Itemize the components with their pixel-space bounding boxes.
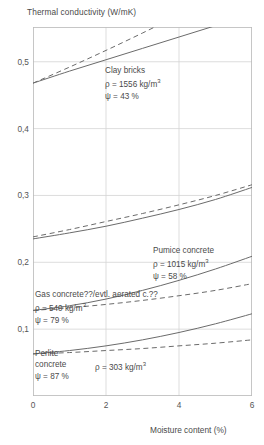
annotation-density: ρ = 540 kg/m3 bbox=[35, 300, 158, 314]
annotation-pumice-concrete: Pumice concrete ρ = 1015 kg/m3 ψ = 58 % bbox=[153, 245, 214, 282]
annotation-density: ρ = 1556 kg/m3 bbox=[105, 76, 161, 90]
annotation-gas-concrete: Gas concrete??/evtl. aerated c.?? ρ = 54… bbox=[35, 289, 158, 326]
annotation-psi: ψ = 79 % bbox=[35, 315, 158, 326]
annotation-title: Pumice concrete bbox=[153, 245, 214, 256]
annotation-perlite-concrete: Perlite concrete ψ = 87 % bbox=[35, 348, 69, 382]
y-tick-label-4: 0,5 bbox=[3, 57, 29, 67]
x-tick-label-0: 0 bbox=[31, 400, 36, 410]
annotation-title-line1: Perlite bbox=[35, 348, 69, 359]
x-tick-label-2: 4 bbox=[177, 400, 182, 410]
annotation-psi: ψ = 43 % bbox=[105, 91, 161, 102]
plot-area: Clay bricks ρ = 1556 kg/m3 ψ = 43 % Pumi… bbox=[33, 27, 252, 396]
x-axis-label: Moisture content (%) bbox=[150, 425, 227, 435]
annotation-density: ρ = 303 kg/m3 bbox=[95, 359, 146, 373]
annotation-title-line2: concrete bbox=[35, 359, 69, 370]
annotation-psi: ψ = 87 % bbox=[35, 371, 69, 382]
y-tick-label-3: 0,4 bbox=[3, 124, 29, 134]
annotation-title: Clay bricks bbox=[105, 65, 161, 76]
annotation-perlite-density: ρ = 303 kg/m3 bbox=[95, 359, 146, 373]
y-tick-label-2: 0,3 bbox=[3, 190, 29, 200]
annotation-psi: ψ = 58 % bbox=[153, 271, 214, 282]
annotation-density: ρ = 1015 kg/m3 bbox=[153, 256, 214, 270]
annotation-clay-bricks: Clay bricks ρ = 1556 kg/m3 ψ = 43 % bbox=[105, 65, 161, 102]
chart-title: Thermal conductivity (W/mK) bbox=[27, 7, 136, 17]
annotation-title: Gas concrete??/evtl. aerated c.?? bbox=[35, 289, 158, 300]
y-tick-label-1: 0,2 bbox=[3, 257, 29, 267]
series-line bbox=[33, 185, 252, 237]
x-tick-label-3: 6 bbox=[250, 400, 255, 410]
x-tick-label-1: 2 bbox=[104, 400, 109, 410]
y-tick-label-0: 0,1 bbox=[3, 324, 29, 334]
